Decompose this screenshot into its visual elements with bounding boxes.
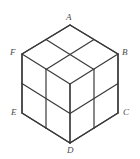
top-face-group <box>22 25 118 84</box>
vertex-label-e: E <box>11 108 17 117</box>
vertex-label-d: D <box>67 146 74 155</box>
vertex-label-c: C <box>123 108 129 117</box>
vertex-label-a: A <box>66 13 72 22</box>
cube-diagram-figure: A F B E C D <box>0 0 140 159</box>
left-face-group <box>22 54 70 143</box>
vertex-label-b: B <box>122 48 128 57</box>
right-face-group <box>70 54 118 143</box>
vertex-label-f: F <box>10 48 16 57</box>
cube-drawing <box>0 0 140 159</box>
